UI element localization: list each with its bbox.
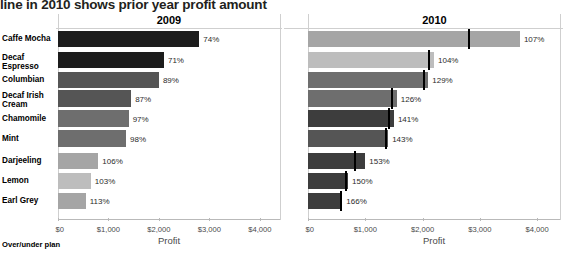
category-label: Decaf Espresso — [2, 53, 56, 71]
prior-year-reference-line — [354, 151, 356, 171]
prior-year-reference-line — [391, 88, 393, 109]
bar-value-label: 104% — [438, 56, 458, 65]
prior-year-reference-line — [428, 50, 430, 70]
bar — [58, 72, 159, 88]
x-axis-tick-label: $1,000 — [354, 225, 377, 234]
bar-value-label: 71% — [168, 56, 184, 65]
category-label-column: Caffe MochaDecaf EspressoColumbianDecaf … — [0, 14, 56, 232]
bar — [308, 110, 394, 127]
x-axis-tick-label: $4,000 — [525, 225, 548, 234]
bar-row: 126% — [308, 90, 560, 107]
category-label: Chamomile — [2, 114, 56, 123]
prior-year-reference-line — [345, 171, 347, 191]
bar-value-label: 166% — [346, 197, 366, 206]
bar — [308, 153, 365, 169]
bar-value-label: 98% — [130, 134, 146, 143]
panel-right-rule — [560, 14, 561, 220]
x-axis-tick — [159, 218, 160, 221]
plot-area-2010: Profit $0$1,000$2,000$3,000$4,000107%104… — [308, 29, 560, 220]
category-label: Lemon — [2, 176, 56, 185]
category-label: Earl Grey — [2, 196, 56, 205]
bar — [308, 173, 348, 189]
bar-row: 87% — [58, 90, 280, 107]
panel-2010: 2010 Profit $0$1,000$2,000$3,000$4,00010… — [284, 14, 563, 232]
x-axis-tick-label: $3,000 — [198, 225, 221, 234]
panel-title-2010: 2010 — [284, 14, 563, 28]
bar-row: 71% — [58, 52, 280, 68]
bar-value-label: 106% — [102, 157, 122, 166]
bar-row: 106% — [58, 153, 280, 169]
x-axis-line — [308, 219, 560, 220]
bar-value-label: 150% — [352, 177, 372, 186]
category-label: Caffe Mocha — [2, 34, 56, 43]
x-axis-tick — [365, 218, 366, 221]
bar-value-label: 89% — [163, 76, 179, 85]
prior-year-reference-line — [468, 29, 470, 49]
bar-value-label: 103% — [95, 177, 115, 186]
bar — [58, 90, 131, 107]
bar — [308, 72, 428, 88]
x-axis-tick — [209, 218, 210, 221]
bar-row: 103% — [58, 173, 280, 189]
bar — [58, 52, 164, 68]
bar — [308, 52, 434, 68]
bar — [58, 31, 199, 47]
bar-value-label: 74% — [203, 35, 219, 44]
bar — [308, 130, 388, 147]
bar-row: 129% — [308, 72, 560, 88]
bar — [308, 31, 520, 47]
bar-row: 166% — [308, 193, 560, 209]
category-label: Darjeeling — [2, 156, 56, 165]
x-axis-tick-label: $2,000 — [411, 225, 434, 234]
category-label: Columbian — [2, 75, 56, 84]
prior-year-reference-line — [388, 108, 390, 129]
x-axis-tick — [423, 218, 424, 221]
panel-right-rule — [280, 14, 281, 220]
bar-value-label: 153% — [369, 157, 389, 166]
bar-value-label: 113% — [90, 197, 110, 206]
bar — [308, 193, 342, 209]
x-axis-tick-label: $1,000 — [97, 225, 120, 234]
bar-row: 143% — [308, 130, 560, 147]
prior-year-reference-line — [423, 70, 425, 90]
bar-value-label: 97% — [133, 114, 149, 123]
prior-year-reference-line — [385, 128, 387, 149]
bar-value-label: 107% — [524, 35, 544, 44]
x-axis-title: Profit — [308, 235, 560, 246]
panel-2009: 2009 Profit $0$1,000$2,000$3,000$4,00074… — [56, 14, 282, 232]
bar-value-label: 143% — [392, 134, 412, 143]
x-axis-line — [58, 219, 280, 220]
chart-page: line in 2010 shows prior year profit amo… — [0, 0, 563, 258]
footer-label: Over/under plan — [2, 240, 60, 249]
bar-row: 97% — [58, 110, 280, 127]
bar-row: 141% — [308, 110, 560, 127]
bar-value-label: 126% — [401, 94, 421, 103]
bar-value-label: 141% — [398, 114, 418, 123]
bar-row: 150% — [308, 173, 560, 189]
x-axis-tick — [260, 218, 261, 221]
bar-value-label: 87% — [135, 94, 151, 103]
plot-area-2009: Profit $0$1,000$2,000$3,000$4,00074%71%8… — [58, 29, 280, 220]
page-title: line in 2010 shows prior year profit amo… — [0, 0, 563, 13]
bar — [58, 173, 91, 189]
bar — [58, 153, 98, 169]
bar — [58, 110, 129, 127]
bar-row: 89% — [58, 72, 280, 88]
x-axis-title: Profit — [58, 235, 280, 246]
bar — [308, 90, 397, 107]
x-axis-tick-label: $4,000 — [248, 225, 271, 234]
bar — [58, 130, 126, 147]
x-axis-tick-label: $0 — [55, 225, 63, 234]
category-label: Mint — [2, 134, 56, 143]
x-axis-tick-label: $0 — [305, 225, 313, 234]
bar-row: 98% — [58, 130, 280, 147]
x-axis-tick — [308, 218, 309, 221]
bar-row: 107% — [308, 31, 560, 47]
prior-year-reference-line — [340, 191, 342, 211]
bar-row: 153% — [308, 153, 560, 169]
panel-title-2009: 2009 — [56, 14, 282, 28]
x-axis-tick — [58, 218, 59, 221]
chart-grid: Caffe MochaDecaf EspressoColumbianDecaf … — [0, 14, 563, 232]
x-axis-tick — [480, 218, 481, 221]
bar-row: 104% — [308, 52, 560, 68]
